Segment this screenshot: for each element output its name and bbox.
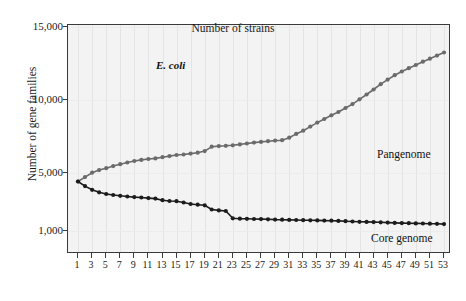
data-point [104,192,108,196]
data-point [125,194,129,198]
data-point [393,221,397,225]
data-point [259,140,263,144]
data-point [231,143,235,147]
x-tick-mark [232,253,233,258]
data-point [273,218,277,222]
data-point [428,57,432,61]
data-point [315,121,319,125]
data-point [224,209,228,213]
data-point [350,219,354,223]
data-point [139,195,143,199]
data-point [428,222,432,226]
data-point [231,216,235,220]
data-point [343,219,347,223]
data-point [329,219,333,223]
y-tick-label: 1,000 [38,225,63,236]
data-point [182,200,186,204]
data-point [294,218,298,222]
data-point [196,203,200,207]
x-tick-mark [429,253,430,258]
x-tick-mark [359,253,360,258]
data-point [442,222,446,226]
data-point [174,153,178,157]
data-point [252,141,256,145]
data-point [90,171,94,175]
data-point [393,73,397,77]
data-point [357,220,361,224]
x-axis: 1357911131517192123252729313335373941434… [0,253,466,301]
data-point [83,175,87,179]
data-point [287,136,291,140]
data-point [400,69,404,73]
x-axis-title: Number of strains [0,22,466,34]
data-point [259,217,263,221]
data-point [273,139,277,143]
data-point [146,196,150,200]
data-point [386,78,390,82]
data-point [280,138,284,142]
data-point [421,60,425,64]
data-point [442,50,446,54]
data-point [343,106,347,110]
data-point [435,54,439,58]
data-point [76,179,80,183]
figure-panel: 1,0005,00010,00015,000 Number of gene fa… [0,0,466,301]
data-point [329,113,333,117]
data-point [210,207,214,211]
data-point [83,184,87,188]
data-point [336,219,340,223]
data-point [322,219,326,223]
data-point [174,199,178,203]
data-point [217,208,221,212]
data-point [294,132,298,136]
data-point [203,203,207,207]
data-point [97,190,101,194]
x-tick-mark [105,253,106,258]
data-point [245,217,249,221]
data-point [322,117,326,121]
data-point [407,66,411,70]
x-tick-mark [147,253,148,258]
data-point [238,142,242,146]
data-point [111,193,115,197]
x-tick-mark [288,253,289,258]
data-point [379,82,383,86]
data-point [400,221,404,225]
data-point [90,188,94,192]
data-point [357,97,361,101]
x-tick-mark [204,253,205,258]
x-tick-mark [415,253,416,258]
x-tick-mark [302,253,303,258]
data-point [308,218,312,222]
x-tick-mark [176,253,177,258]
data-point [280,218,284,222]
data-point [301,129,305,133]
data-point [407,221,411,225]
data-point [365,220,369,224]
series-label-pangenome: Pangenome [377,148,431,160]
data-point [160,155,164,159]
data-point [224,144,228,148]
data-point [386,221,390,225]
data-point [153,156,157,160]
x-tick-mark [443,253,444,258]
data-point [372,87,376,91]
data-point [111,164,115,168]
x-tick-mark [246,253,247,258]
y-axis-title: Number of gene families [26,29,38,219]
data-point [217,144,221,148]
data-point [365,92,369,96]
x-tick-mark [373,253,374,258]
x-tick-mark [91,253,92,258]
x-tick-mark [330,253,331,258]
series-pangenome [76,50,446,183]
data-point [146,157,150,161]
plot-area: E. coli Pangenome Core genome [67,24,450,253]
data-point [350,102,354,106]
data-point [336,110,340,114]
data-point [118,162,122,166]
data-point [203,149,207,153]
x-tick-label: 53 [434,259,452,270]
data-point [266,217,270,221]
x-tick-mark [77,253,78,258]
